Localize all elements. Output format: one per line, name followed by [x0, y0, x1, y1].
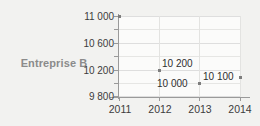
gridline-y-10800: [119, 29, 241, 30]
data-label-2012: 10 200: [162, 58, 193, 69]
y-tick-10600: [114, 43, 119, 44]
y-tick-10800: [114, 29, 119, 30]
y-tick-10200: [114, 70, 119, 71]
data-label-2014: 10 100: [203, 71, 234, 82]
y-tick-10400: [114, 56, 119, 57]
x-tick-label-2014: 2014: [220, 103, 260, 115]
gridline-x-2013: [199, 16, 200, 97]
y-tick-10000: [114, 83, 119, 84]
data-point-2011[interactable]: [118, 15, 121, 18]
x-axis-line: [110, 97, 250, 98]
data-point-2014[interactable]: [239, 76, 242, 79]
y-tick-label-10200: 10 200: [70, 65, 114, 76]
x-tick-label-2011: 2011: [100, 103, 140, 115]
data-point-2013[interactable]: [198, 82, 201, 85]
y-tick-label-11000: 11 000: [70, 11, 114, 22]
chart-page: Entreprise B: [0, 0, 260, 126]
x-tick-2011: [119, 97, 120, 101]
x-tick-label-2013: 2013: [180, 103, 220, 115]
data-label-2013: 10 000: [157, 78, 188, 89]
gridline-y-11000: [119, 16, 241, 17]
y-tick-label-10600: 10 600: [70, 38, 114, 49]
y-tick-label-9800: 9 800: [70, 91, 114, 102]
x-tick-2014: [240, 97, 241, 101]
scatter-chart: 11 000 10 600 10 200 9 800 2011 2012 201…: [0, 0, 260, 126]
gridline-x-2014: [240, 16, 241, 97]
gridline-y-10400: [119, 56, 241, 57]
data-point-2012[interactable]: [158, 69, 161, 72]
x-tick-2012: [159, 97, 160, 101]
x-tick-2013: [199, 97, 200, 101]
gridline-y-10600: [119, 43, 241, 44]
x-tick-label-2012: 2012: [140, 103, 180, 115]
